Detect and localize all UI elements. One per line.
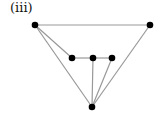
node-bottom xyxy=(89,104,96,111)
node-mid-left xyxy=(69,55,76,62)
node-top-right xyxy=(147,22,154,29)
edge-top-right-bottom xyxy=(92,25,150,107)
node-mid-right xyxy=(109,55,116,62)
node-top-left xyxy=(32,22,39,29)
graph-diagram xyxy=(0,0,163,122)
edge-top-left-bottom xyxy=(35,25,92,107)
edge-top-left-mid-left xyxy=(35,25,72,58)
edge-mid-center-bottom xyxy=(92,58,93,107)
node-mid-center xyxy=(90,55,97,62)
